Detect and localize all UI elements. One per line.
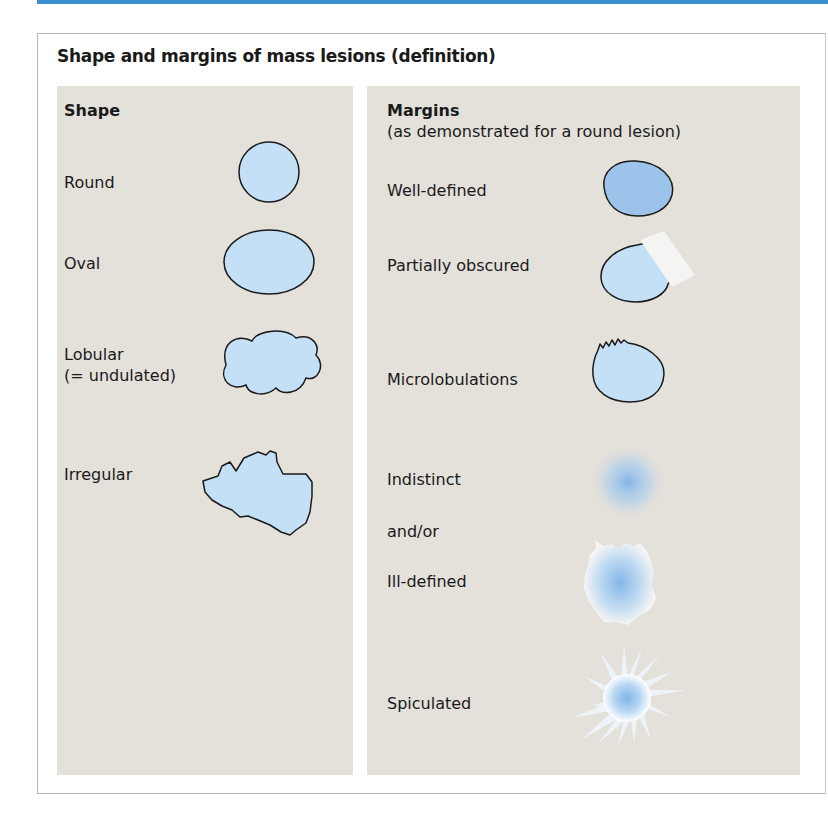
indistinct-lesion-icon <box>590 444 666 520</box>
well-defined-lesion-icon <box>604 161 673 216</box>
spiculated-lesion-icon <box>571 644 686 748</box>
oval-lesion-icon <box>224 230 314 294</box>
partially-obscured-lesion-icon <box>601 231 695 302</box>
lobular-lesion-icon <box>224 331 321 394</box>
microlobulated-lesion-icon <box>593 339 664 402</box>
round-lesion-icon <box>239 142 299 202</box>
ill-defined-lesion-icon <box>584 540 656 625</box>
irregular-lesion-icon <box>203 451 312 535</box>
lesion-illustrations <box>0 0 828 815</box>
